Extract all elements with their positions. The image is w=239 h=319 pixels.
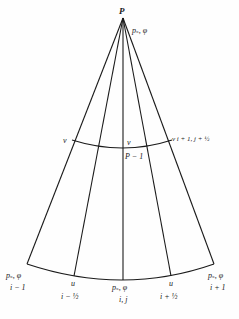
bottom-right-var-label: pₛ, φ [208,272,223,280]
bottom-left-index-label: i − 1 [10,284,26,292]
radial-line-i-plus-half [123,18,171,276]
mid-arc [72,140,172,148]
bottom-center-index-label: i, j [119,296,127,304]
bottom-center-var-label: pₛ, φ [112,284,127,292]
bottom-left-mid-index-label: i − ½ [61,293,79,301]
apex-var-label: pₛ, φ [132,27,147,35]
bottom-left-mid-u-label: u [71,280,75,288]
mid-center-v-label: v [127,139,131,147]
apex-label: P [119,7,125,16]
bottom-right-mid-u-label: u [169,280,173,288]
diagram-lines [0,0,239,319]
bottom-right-mid-index-label: i + ½ [160,293,178,301]
bottom-arc [27,264,214,280]
polar-grid-diagram: P pₛ, φ v v P − 1 v i + 1, j + ½ pₛ, φ i… [0,0,239,319]
mid-left-v-label: v [63,137,67,145]
radial-line-i-minus-half [74,18,123,276]
bottom-left-var-label: pₛ, φ [6,272,21,280]
mid-right-v-label: v i + 1, j + ½ [172,136,209,143]
bottom-right-index-label: i + 1 [210,284,226,292]
mid-center-p-minus-1-label: P − 1 [125,153,143,161]
